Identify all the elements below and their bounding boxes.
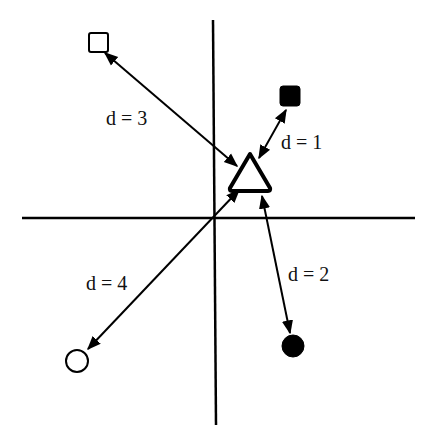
hollow-circle-icon (66, 350, 88, 372)
label-d3: d = 3 (106, 107, 147, 129)
label-d2: d = 2 (288, 263, 329, 285)
arrow-d2 (262, 196, 290, 333)
filled-circle-icon (282, 335, 304, 357)
query-triangle-icon (230, 154, 271, 191)
filled-square-icon (280, 86, 300, 106)
label-d4: d = 4 (86, 272, 127, 294)
label-d1: d = 1 (281, 131, 322, 153)
vertical-axis (213, 20, 216, 425)
hollow-square-icon (89, 33, 108, 52)
distance-diagram: d = 3 d = 1 d = 4 d = 2 (0, 0, 436, 446)
